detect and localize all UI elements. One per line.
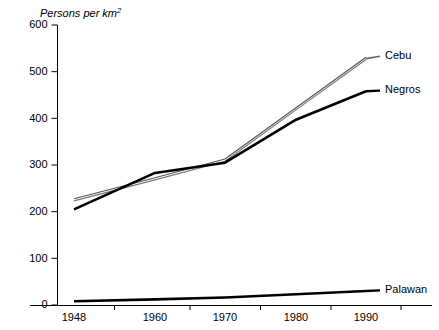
y-tick-label: 200 xyxy=(29,205,47,217)
y-tick-label: 300 xyxy=(29,158,47,170)
series-label-cebu: Cebu xyxy=(385,49,411,61)
y-tick-label: 400 xyxy=(29,112,47,124)
y-tick-label: 600 xyxy=(29,18,47,30)
x-tick-label: 1948 xyxy=(62,311,86,323)
series-label-negros: Negros xyxy=(385,83,421,95)
y-axis-title-superscript: 2 xyxy=(116,6,122,15)
y-axis-title: Persons per km2 xyxy=(40,6,122,19)
x-tick-label: 1960 xyxy=(143,311,167,323)
series-label-palawan: Palawan xyxy=(385,283,427,295)
y-tick-label: 500 xyxy=(29,65,47,77)
series-leader-palawan xyxy=(366,290,380,291)
series-labels: CebuNegrosPalawan xyxy=(385,49,427,295)
series-layer xyxy=(74,56,380,301)
series-leader-cebu xyxy=(366,56,380,58)
series-line-cebu-shadow xyxy=(74,60,366,201)
y-tick-label: 100 xyxy=(29,252,47,264)
series-leader-negros xyxy=(366,91,380,92)
population-density-line-chart: Persons per km2 0100200300400500600 1948… xyxy=(0,0,439,330)
series-line-negros xyxy=(74,91,366,209)
x-tick-label: 1980 xyxy=(284,311,308,323)
x-tick-label: 1990 xyxy=(354,311,378,323)
y-axis-title-text: Persons per km xyxy=(40,7,117,19)
series-line-palawan xyxy=(74,291,366,301)
x-axis-ticks: 19481960197019801990 xyxy=(62,305,401,323)
y-tick-label: 0 xyxy=(41,298,47,310)
x-tick-label: 1970 xyxy=(213,311,237,323)
chart-svg: Persons per km2 0100200300400500600 1948… xyxy=(0,0,439,330)
series-line-cebu xyxy=(74,57,366,198)
y-axis-ticks: 0100200300400500600 xyxy=(29,18,57,310)
